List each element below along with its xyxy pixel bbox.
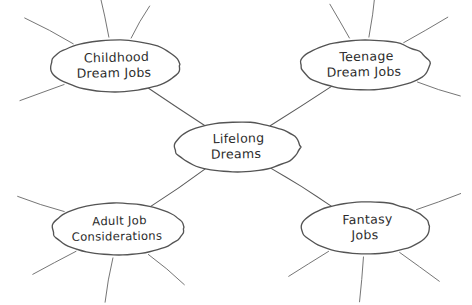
node-teenage-dream-jobs[interactable]: TeenageDream Jobs bbox=[300, 40, 430, 90]
spoke-line bbox=[404, 17, 448, 42]
spoke-line bbox=[25, 18, 74, 44]
connector-center-to-adult bbox=[151, 169, 206, 207]
mind-map-canvas: ChildhoodDream JobsTeenageDream JobsAdul… bbox=[0, 0, 472, 305]
node-fantasy-jobs[interactable]: FantasyJobs bbox=[301, 202, 429, 254]
node-lifelong-dreams[interactable]: LifelongDreams bbox=[174, 122, 301, 172]
spoke-line bbox=[33, 251, 76, 274]
node-adult-job-considerations[interactable]: Adult JobConsiderations bbox=[52, 203, 184, 255]
node-label-line: Dream Jobs bbox=[326, 64, 401, 80]
node-label-line: Considerations bbox=[72, 229, 163, 244]
spoke-line bbox=[131, 6, 150, 38]
node-label-line: Teenage bbox=[338, 48, 394, 64]
spoke-line bbox=[330, 4, 350, 38]
spoke-line bbox=[105, 258, 113, 302]
spoke-line bbox=[416, 194, 460, 210]
node-ellipses-layer: ChildhoodDream JobsTeenageDream JobsAdul… bbox=[51, 40, 431, 255]
spoke-line bbox=[18, 196, 65, 211]
node-label-line: Lifelong bbox=[212, 130, 264, 146]
spoke-line bbox=[400, 252, 440, 281]
spoke-line bbox=[360, 257, 364, 302]
node-label-line: Childhood bbox=[84, 49, 150, 66]
connector-center-to-fantasy bbox=[271, 168, 332, 206]
connector-center-to-childhood bbox=[149, 88, 205, 125]
node-label-line: Adult Job bbox=[92, 213, 147, 228]
spoke-line bbox=[148, 254, 184, 284]
node-label-line: Dream Jobs bbox=[76, 65, 151, 81]
mind-map-diagram: ChildhoodDream JobsTeenageDream JobsAdul… bbox=[0, 0, 472, 305]
node-childhood-dream-jobs[interactable]: ChildhoodDream Jobs bbox=[51, 40, 180, 92]
node-label-line: Jobs bbox=[350, 227, 378, 242]
connector-center-to-teenage bbox=[270, 86, 331, 125]
spoke-line bbox=[369, 0, 375, 37]
spoke-line bbox=[20, 85, 64, 101]
spoke-line bbox=[100, 0, 109, 37]
node-label-line: Dreams bbox=[211, 146, 262, 162]
spoke-line bbox=[418, 82, 461, 96]
node-label-line: Fantasy bbox=[342, 211, 393, 227]
spoke-line bbox=[289, 251, 329, 276]
